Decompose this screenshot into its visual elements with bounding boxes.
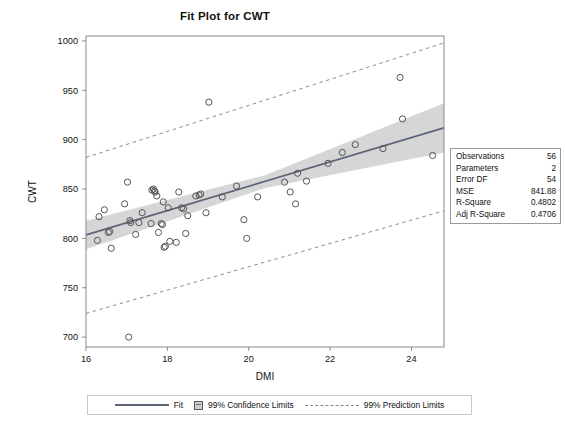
stat-value: 2 [551,163,556,175]
x-tick-label: 16 [81,354,91,364]
legend-label: 99% Confidence Limits [208,400,294,410]
data-point [203,210,209,216]
stat-label: Parameters [456,163,498,175]
x-tick-label: 24 [406,354,416,364]
data-point [122,201,128,207]
stat-row: R-Square0.4802 [451,197,560,209]
data-point [241,217,247,223]
x-axis-label: DMI [256,371,274,382]
data-point [124,179,130,185]
data-point [287,189,293,195]
data-point [397,74,403,80]
y-tick-label: 950 [63,86,78,96]
y-tick-label: 750 [63,283,78,293]
stat-row: Observations56 [451,151,560,163]
data-point [126,334,132,340]
x-tick-label: 22 [325,354,335,364]
data-point [292,201,298,207]
legend-label: Fit [174,400,183,410]
y-tick-label: 900 [63,135,78,145]
fit-statistics-box: Observations56Parameters2Error DF54MSE84… [450,148,561,224]
y-tick-label: 850 [63,184,78,194]
stat-label: R-Square [456,197,491,209]
data-point [173,239,179,245]
stat-row: Parameters2 [451,163,560,175]
legend-item[interactable]: 99% Prediction Limits [305,400,445,410]
fit-plot-page: Fit Plot for CWT 70075080085090095010001… [0,0,565,426]
x-tick-label: 20 [244,354,254,364]
chart-legend: Fit99% Confidence Limits99% Prediction L… [87,395,472,415]
y-tick-label: 800 [63,234,78,244]
data-point [154,193,160,199]
confidence-band [86,103,444,249]
y-tick-label: 1000 [58,36,78,46]
stat-row: MSE841.88 [451,186,560,198]
y-tick-label: 700 [63,332,78,342]
stat-value: 54 [547,174,556,186]
fit-line [86,128,444,235]
stat-value: 0.4802 [531,197,556,209]
data-point [108,245,114,251]
data-point [176,189,182,195]
stat-value: 0.4706 [531,209,556,221]
plot-frame [86,36,444,347]
data-point [167,238,173,244]
legend-label: 99% Prediction Limits [364,400,445,410]
stat-value: 56 [547,151,556,163]
stat-row: Error DF54 [451,174,560,186]
prediction-line-swatch-icon [305,405,359,406]
x-tick-label: 18 [162,354,172,364]
data-point [183,230,189,236]
stat-label: Error DF [456,174,487,186]
data-point [206,99,212,105]
stat-value: 841.88 [531,186,556,198]
data-point [101,207,107,213]
data-point [155,229,161,235]
y-axis-label: CWT [27,180,38,203]
confidence-band-swatch-icon [194,401,203,410]
stat-label: Adj R-Square [456,209,505,221]
legend-item[interactable]: 99% Confidence Limits [194,400,294,410]
data-point [244,235,250,241]
data-point [255,194,261,200]
legend-item[interactable]: Fit [115,400,183,410]
stat-label: MSE [456,186,474,198]
fit-line-swatch-icon [115,404,169,406]
stat-label: Observations [456,151,504,163]
stat-row: Adj R-Square0.4706 [451,209,560,221]
